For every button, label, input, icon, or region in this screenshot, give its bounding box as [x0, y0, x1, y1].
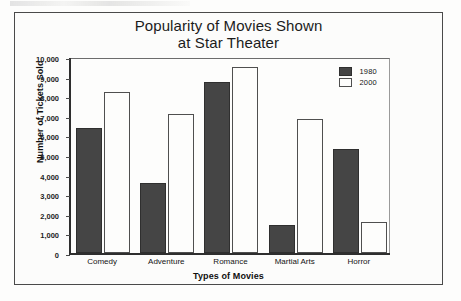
chart-title-line-2: at Star Theater: [15, 35, 442, 52]
bar-1980: [140, 183, 166, 253]
scan-artifact: [10, 1, 190, 6]
bar-2000: [361, 222, 387, 253]
bar-group: Comedy: [70, 59, 134, 253]
legend-label-1980: 1980: [360, 67, 378, 76]
legend-item-1980: 1980: [339, 66, 378, 77]
x-axis-category-label: Horror: [327, 257, 391, 266]
y-axis-tick-label: 3,000: [40, 192, 59, 201]
y-axis-tick-label: 0: [55, 251, 59, 260]
bar-2000: [232, 67, 258, 253]
y-axis-tick-label: 5,000: [40, 153, 59, 162]
y-axis-tick-label: 2,000: [40, 211, 59, 220]
legend-swatch-1980-icon: [339, 67, 352, 76]
x-axis-category-label: Adventure: [134, 257, 198, 266]
y-axis-tick-label: 6,000: [40, 133, 59, 142]
bar-1980: [76, 128, 102, 253]
y-axis-tick-label: 10,000: [36, 55, 59, 64]
chart-title-line-1: Popularity of Movies Shown: [135, 17, 323, 34]
legend-swatch-2000-icon: [339, 78, 352, 87]
x-axis-category-label: Romance: [198, 257, 262, 266]
bar-2000: [104, 92, 130, 253]
y-axis-tick-label: 9,000: [40, 74, 59, 83]
chart-title: Popularity of Movies Shown at Star Theat…: [15, 18, 442, 52]
plot-area: 10,0009,0008,0007,0006,0005,0004,0003,00…: [69, 58, 390, 254]
bar-1980: [333, 149, 359, 253]
chart-figure-frame: Popularity of Movies Shown at Star Theat…: [14, 12, 443, 285]
chart-page: Popularity of Movies Shown at Star Theat…: [0, 0, 461, 301]
bar-2000: [168, 114, 194, 253]
y-axis-tick-label: 4,000: [40, 172, 59, 181]
y-axis-tick-label: 7,000: [40, 113, 59, 122]
x-axis-category-label: Martial Arts: [263, 257, 327, 266]
bar-group: Adventure: [134, 59, 198, 253]
x-axis-line: [69, 253, 390, 255]
bar-group: Martial Arts: [263, 59, 327, 253]
bar-1980: [269, 225, 295, 253]
legend-item-2000: 2000: [339, 77, 378, 88]
x-axis-category-label: Comedy: [70, 257, 134, 266]
bar-2000: [297, 119, 323, 253]
bar-group: Horror: [327, 59, 391, 253]
bar-group: Romance: [198, 59, 262, 253]
bar-1980: [204, 82, 230, 253]
x-axis-title: Types of Movies: [69, 271, 388, 281]
y-axis-tick: 0: [66, 255, 70, 256]
legend-label-2000: 2000: [360, 78, 378, 87]
y-axis-tick-label: 1,000: [40, 231, 59, 240]
chart-legend: 1980 2000: [339, 66, 378, 88]
y-axis-tick-label: 8,000: [40, 94, 59, 103]
